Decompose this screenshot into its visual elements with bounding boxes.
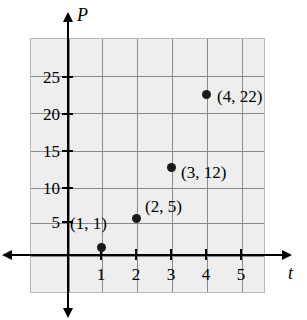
y-tick-label: 5	[40, 214, 60, 231]
x-tick-mark	[205, 249, 207, 260]
x-tick-label: 1	[97, 266, 106, 283]
y-tick-mark	[62, 150, 73, 152]
y-axis-label: P	[77, 6, 88, 24]
y-tick-label: 20	[31, 106, 60, 123]
x-tick-mark	[240, 249, 242, 260]
x-axis-label: t	[288, 264, 293, 282]
y-tick-mark	[62, 187, 73, 189]
x-tick-label: 3	[167, 266, 176, 283]
y-tick-mark	[62, 76, 73, 78]
y-tick-label: 15	[31, 143, 60, 160]
y-axis-line	[67, 22, 69, 309]
data-point-marker	[97, 243, 106, 252]
gridline-horizontal	[31, 256, 264, 257]
x-tick-label: 2	[132, 266, 141, 283]
data-point-label: (1, 1)	[70, 215, 107, 232]
x-tick-mark	[170, 249, 172, 260]
data-point-label: (3, 12)	[181, 164, 226, 181]
data-point-label: (4, 22)	[217, 88, 262, 105]
data-point-marker	[132, 214, 141, 223]
x-axis-arrow-right-icon	[282, 250, 292, 260]
gridline-horizontal	[31, 223, 264, 224]
y-tick-label: 10	[31, 180, 60, 197]
y-tick-label: 25	[31, 69, 60, 86]
y-tick-mark	[62, 113, 73, 115]
data-point-marker	[202, 90, 211, 99]
y-axis-arrow-down-icon	[63, 308, 73, 318]
x-tick-label: 4	[202, 266, 211, 283]
x-tick-label: 5	[237, 266, 246, 283]
scatter-plot-figure: P t 1 2 3 4 5 5 10 15 20 25 (1, 1) (2, 5…	[0, 0, 307, 320]
x-tick-mark	[135, 249, 137, 260]
x-axis-line	[10, 254, 284, 256]
y-axis-arrow-up-icon	[63, 12, 73, 22]
data-point-label: (2, 5)	[145, 198, 182, 215]
x-axis-arrow-left-icon	[2, 250, 12, 260]
data-point-marker	[167, 163, 176, 172]
